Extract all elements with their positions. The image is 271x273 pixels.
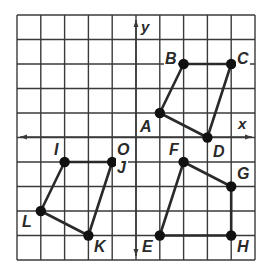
y-axis-up-arrow-icon [134,20,139,27]
point-H-dot [226,230,236,240]
label-J: J [117,159,127,176]
label-L: L [22,213,32,230]
label-E: E [142,238,154,255]
point-G-dot [226,181,236,191]
quadrilateral-abcd [160,64,231,138]
label-C: C [237,50,249,67]
label-G: G [237,165,249,182]
point-L-dot [36,206,46,216]
point-A-dot [155,108,165,118]
x-axis-label: x [237,115,247,132]
label-F: F [169,141,180,158]
quadrilateral-efgh [160,162,231,236]
label-D: D [213,143,225,160]
point-J-dot [107,157,117,167]
point-B-dot [178,59,188,69]
coordinate-grid-diagram: y x O B C A D F G E H I [0,0,271,273]
quadrilateral-ijkl [41,162,112,236]
point-K-dot [83,230,93,240]
point-C-dot [226,59,236,69]
axes: y x O [20,18,252,256]
point-I-dot [59,157,69,167]
y-axis-down-arrow-icon [134,249,139,256]
point-E-dot [155,230,165,240]
point-F-dot [178,157,188,167]
origin-label: O [117,141,130,158]
point-D-dot [202,132,212,142]
y-axis-label: y [140,18,150,35]
x-axis-left-arrow-icon [20,135,27,140]
diagram-canvas: y x O B C A D F G E H I [0,0,271,273]
label-I: I [54,141,59,158]
label-A: A [139,118,152,135]
label-K: K [94,238,107,255]
label-H: H [237,238,249,255]
label-B: B [165,50,177,67]
x-axis-right-arrow-icon [245,135,252,140]
